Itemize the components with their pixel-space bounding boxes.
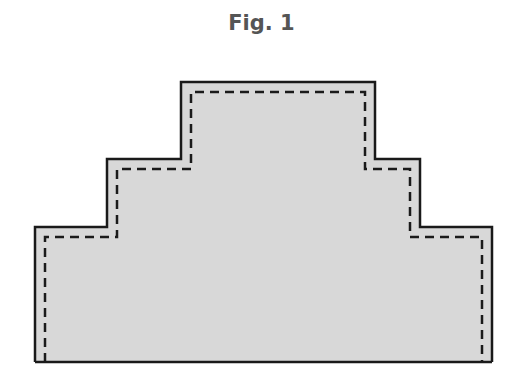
stepped-shape-diagram bbox=[0, 0, 523, 388]
shape-fill-area bbox=[35, 82, 492, 362]
